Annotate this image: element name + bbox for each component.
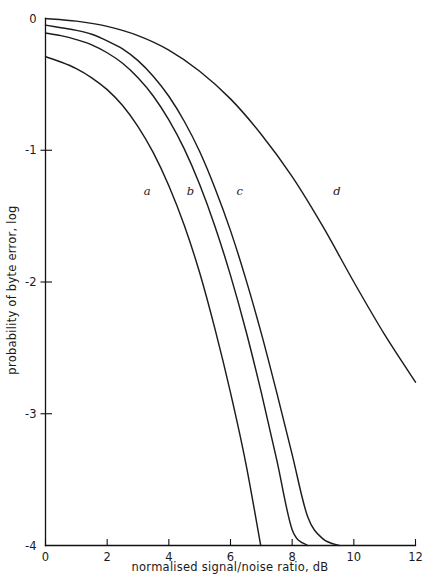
x-tick-label: 0 [42,550,49,564]
curve-label-a: a [144,184,151,198]
x-axis-title: normalised signal/noise ratio, dB [132,560,329,574]
data-curves [46,19,416,546]
curve-label-b: b [187,184,194,198]
y-axis-ticks: 0-1-2-3-4 [25,12,52,553]
x-tick-label: 12 [408,550,423,564]
y-tick-label: 0 [29,12,36,26]
curve-c [46,25,340,545]
curve-b [46,33,308,546]
curve-label-c: c [237,184,244,198]
y-axis-title: probability of byte error, log [5,205,19,374]
axes-group [46,19,416,546]
curve-a [46,57,261,546]
y-tick-label: -1 [25,143,36,157]
y-tick-label: -4 [25,539,36,553]
y-tick-label: -2 [25,275,36,289]
curve-label-d: d [333,184,340,198]
x-tick-label: 2 [104,550,111,564]
y-tick-label: -3 [25,407,36,421]
chart-figure: 024681012 0-1-2-3-4 abcd normalised sign… [0,0,435,586]
x-tick-label: 10 [347,550,362,564]
chart-plot-area: 024681012 0-1-2-3-4 abcd normalised sign… [0,0,435,586]
curve-d [46,19,416,383]
